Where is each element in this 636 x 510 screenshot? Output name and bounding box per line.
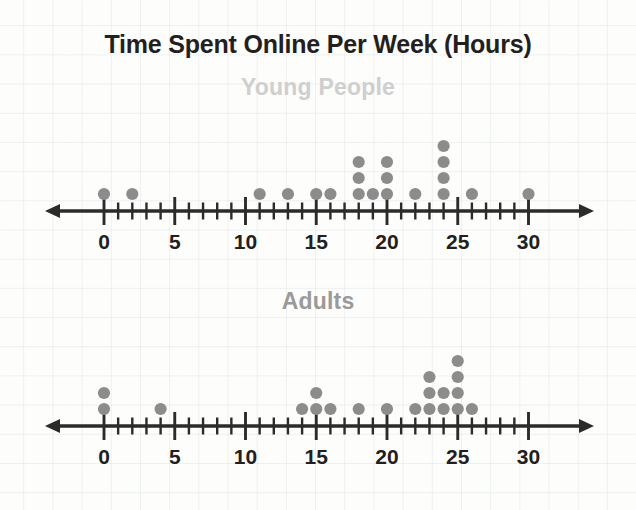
axis-arrow-left <box>45 419 60 433</box>
data-point-dot <box>126 188 138 200</box>
data-point-dot <box>353 188 365 200</box>
data-point-dot <box>423 387 435 399</box>
data-point-dot <box>296 403 308 415</box>
data-point-dot <box>282 188 294 200</box>
axis-arrow-right <box>579 419 594 433</box>
data-point-dot <box>98 403 110 415</box>
data-point-dot <box>324 188 336 200</box>
axis-tick-label: 0 <box>98 445 110 465</box>
dot-plot-young-people: 051015202530 <box>0 110 636 250</box>
data-point-dot <box>367 188 379 200</box>
axis-tick-label: 25 <box>446 230 470 250</box>
data-point-dot <box>381 403 393 415</box>
axis-tick-label: 30 <box>517 445 540 465</box>
data-point-dot <box>438 403 450 415</box>
axis-tick-label: 20 <box>375 230 398 250</box>
dot-plot-worksheet: Time Spent Online Per Week (Hours) Young… <box>0 0 636 510</box>
data-point-dot <box>438 387 450 399</box>
axis-tick-label: 10 <box>234 445 257 465</box>
axis-arrow-left <box>45 204 60 218</box>
data-point-dot <box>438 140 450 152</box>
data-point-dot <box>310 387 322 399</box>
axis-tick-label: 5 <box>169 445 181 465</box>
data-point-dot <box>423 371 435 383</box>
plot-subtitle-young-people: Young People <box>0 74 636 101</box>
data-point-dot <box>98 188 110 200</box>
data-point-dot <box>353 172 365 184</box>
data-point-dot <box>438 188 450 200</box>
data-point-dot <box>423 403 435 415</box>
data-point-dot <box>438 156 450 168</box>
data-point-dot <box>452 403 464 415</box>
page-title: Time Spent Online Per Week (Hours) <box>0 30 636 59</box>
data-point-dot <box>466 403 478 415</box>
data-point-dot <box>409 403 421 415</box>
data-point-dot <box>381 188 393 200</box>
axis-arrow-right <box>579 204 594 218</box>
axis-tick-label: 15 <box>305 445 329 465</box>
data-point-dot <box>381 156 393 168</box>
data-point-dot <box>522 188 534 200</box>
axis-tick-label: 0 <box>98 230 110 250</box>
axis-tick-label: 10 <box>234 230 257 250</box>
axis-tick-label: 30 <box>517 230 540 250</box>
data-point-dot <box>452 371 464 383</box>
axis-tick-label: 5 <box>169 230 181 250</box>
data-point-dot <box>310 188 322 200</box>
plot-subtitle-adults: Adults <box>0 288 636 315</box>
data-point-dot <box>466 188 478 200</box>
data-point-dot <box>310 403 322 415</box>
data-point-dot <box>452 355 464 367</box>
data-point-dot <box>438 172 450 184</box>
data-point-dot <box>98 387 110 399</box>
axis-tick-label: 25 <box>446 445 470 465</box>
data-point-dot <box>155 403 167 415</box>
axis-tick-label: 20 <box>375 445 398 465</box>
axis-tick-label: 15 <box>305 230 329 250</box>
data-point-dot <box>353 156 365 168</box>
data-point-dot <box>353 403 365 415</box>
data-point-dot <box>254 188 266 200</box>
data-point-dot <box>324 403 336 415</box>
data-point-dot <box>381 172 393 184</box>
data-point-dot <box>409 188 421 200</box>
dot-plot-adults: 051015202530 <box>0 325 636 465</box>
data-point-dot <box>452 387 464 399</box>
